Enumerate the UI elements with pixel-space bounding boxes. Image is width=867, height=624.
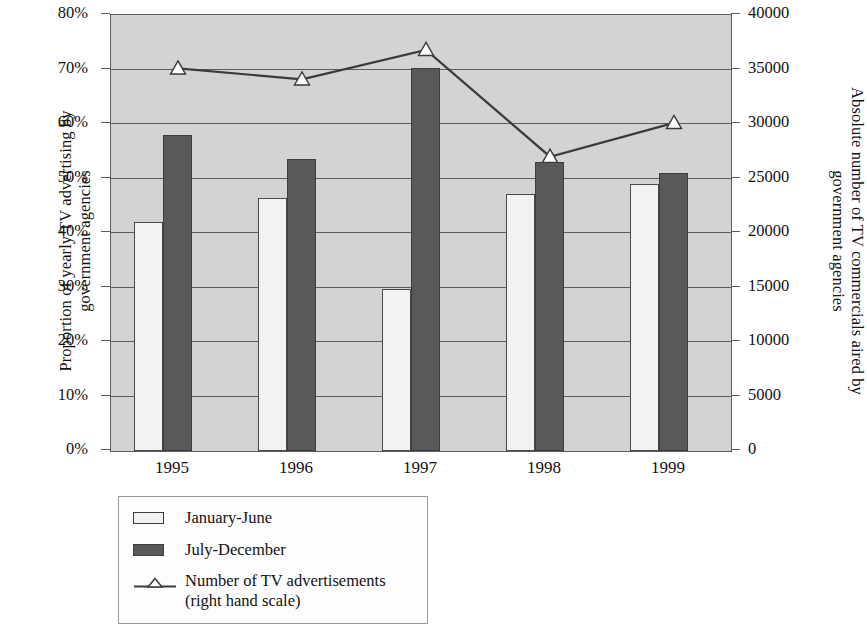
right-tick-label: 15000 [748,278,789,295]
right-tick-mark [731,340,740,341]
left-tick-label: 70% [58,60,88,77]
left-tick-label: 60% [58,114,88,131]
right-tick-label: 40000 [748,5,789,22]
legend-item-number-of-tv-advertisements: Number of TV advertisements (right hand … [133,571,427,610]
legend-swatch-dark-bar-icon [133,540,185,556]
right-tick-mark [731,177,740,178]
legend-swatch-light-bar-icon [133,508,185,524]
x-axis-label-1999: 1999 [606,458,730,478]
line-marker-1995 [171,61,186,74]
right-tick-mark [731,449,740,450]
x-axis-label-1996: 1996 [234,458,358,478]
legend-line-triangle-icon [133,571,185,591]
legend-label-july-december: July-December [185,540,286,560]
left-tick-label: 0% [66,441,88,458]
left-tick-mark [101,286,110,287]
x-axis-label-1995: 1995 [110,458,234,478]
left-tick-mark [101,68,110,69]
right-tick-label: 35000 [748,60,789,77]
legend-label-line2: (right hand scale) [185,591,386,611]
line-marker-1997 [419,42,434,55]
right-tick-mark [731,13,740,14]
left-tick-mark [101,395,110,396]
left-tick-label: 10% [58,387,88,404]
right-tick-label: 0 [748,441,756,458]
legend-item-january-june: January-June [133,508,427,528]
line-series-layer [111,15,731,451]
x-axis-label-1998: 1998 [482,458,606,478]
right-tick-mark [731,395,740,396]
left-tick-mark [101,13,110,14]
right-tick-mark [731,286,740,287]
left-tick-mark [101,122,110,123]
legend-item-july-december: July-December [133,540,427,560]
left-tick-label: 40% [58,223,88,240]
line-marker-1999 [667,115,682,128]
right-axis-title-line2: government agencies [829,15,848,467]
right-tick-label: 10000 [748,332,789,349]
right-tick-label: 20000 [748,223,789,240]
legend-label-line1: Number of TV advertisements [185,571,386,590]
left-tick-label: 30% [58,278,88,295]
plot-area [110,14,732,452]
right-tick-label: 30000 [748,114,789,131]
left-tick-mark [101,231,110,232]
left-tick-mark [101,177,110,178]
right-tick-label: 5000 [748,387,781,404]
legend-label-number-of-tv-advertisements: Number of TV advertisements (right hand … [185,571,386,610]
right-axis-title-line1: Absolute number of TV commercials aired … [848,15,867,467]
left-tick-mark [101,340,110,341]
right-axis-title: Absolute number of TV commercials aired … [829,15,867,467]
right-tick-mark [731,231,740,232]
left-tick-label: 50% [58,169,88,186]
right-tick-mark [731,122,740,123]
legend-label-january-june: January-June [185,508,272,528]
x-axis-label-1997: 1997 [358,458,482,478]
left-tick-mark [101,449,110,450]
chart-legend: January-June July-December Number of TV … [118,496,428,624]
right-tick-mark [731,68,740,69]
left-tick-label: 20% [58,332,88,349]
left-tick-label: 80% [58,5,88,22]
right-tick-label: 25000 [748,169,789,186]
